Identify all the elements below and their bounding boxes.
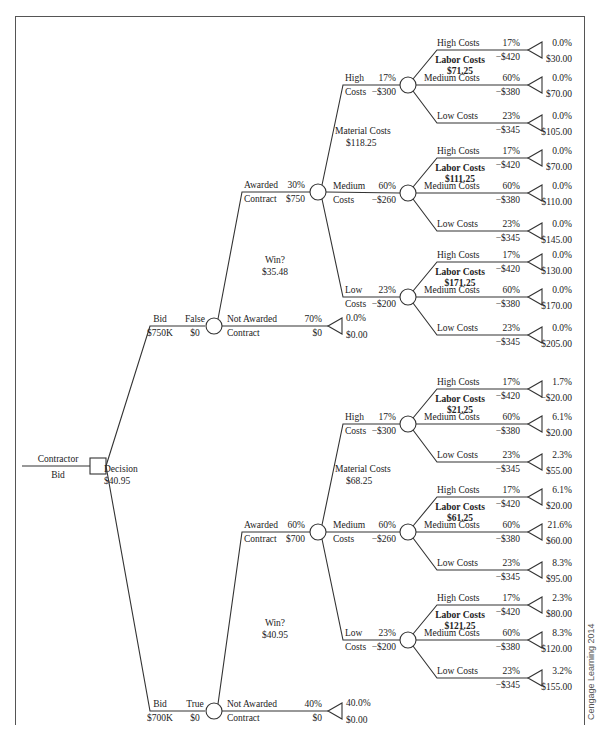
labor-medium-1-2-cost: −$380 <box>496 642 521 652</box>
labor-high-1-2-end-value: $80.00 <box>546 609 572 619</box>
labor-high-0-0-end-value: $30.00 <box>546 54 572 64</box>
not-awarded-end-prob-0: 0.0% <box>346 313 366 323</box>
labor-low-0-0-end-prob: 0.0% <box>552 111 572 121</box>
labor-low-1-1-cost: −$345 <box>496 572 521 582</box>
material-low-0-line <box>322 199 400 297</box>
bid-flag-value-0: $0 <box>190 328 200 338</box>
material-low-1-sub: Costs <box>345 642 366 652</box>
win-value-0: $35.48 <box>262 267 288 277</box>
terminal-node-icon <box>528 562 542 578</box>
labor-medium-1-1-cost: −$380 <box>496 534 521 544</box>
material-medium-1-sub: Costs <box>333 534 354 544</box>
terminal-node-icon <box>328 703 342 719</box>
labor-chance-node-icon-0-0 <box>400 77 416 93</box>
labor-high-1-2-cost: −$420 <box>496 607 521 617</box>
labor-chance-node-icon-0-1 <box>400 185 416 201</box>
material-high-0-sub: Costs <box>345 87 366 97</box>
material-low-0-cost: −$200 <box>372 299 397 309</box>
labor-label-1-0: Labor Costs <box>435 394 485 404</box>
bid-amount-0: $750K <box>147 328 173 338</box>
labor-medium-1-1-prob: 60% <box>503 520 521 530</box>
labor-medium-0-2-end-value: $170.00 <box>541 301 572 311</box>
not-awarded-sub-0: Contract <box>227 328 260 338</box>
labor-low-1-2-label: Low Costs <box>437 666 478 676</box>
not-awarded-sub-1: Contract <box>227 713 260 723</box>
labor-high-0-2-cost: −$420 <box>496 264 521 274</box>
material-low-0-prob: 23% <box>379 285 397 295</box>
labor-low-0-0-label: Low Costs <box>437 111 478 121</box>
labor-high-0-1-cost: −$420 <box>496 160 521 170</box>
awarded-value-0: $750 <box>286 194 305 204</box>
labor-low-1-1-prob: 23% <box>503 558 521 568</box>
labor-medium-1-2-end-prob: 8.3% <box>552 628 572 638</box>
labor-high-1-2-label: High Costs <box>437 593 480 603</box>
labor-high-1-0-label: High Costs <box>437 377 480 387</box>
credit-text: Cengage Learning 2014 <box>586 623 596 720</box>
material-medium-1-cost: −$260 <box>372 534 397 544</box>
bid-label-1: Bid <box>153 699 167 709</box>
bid-branch-0 <box>106 326 205 466</box>
labor-chance-node-icon-1-1 <box>400 524 416 540</box>
labor-low-0-1-end-value: $145.00 <box>541 235 572 245</box>
terminal-node-icon <box>528 115 542 131</box>
labor-medium-0-2-prob: 60% <box>503 285 521 295</box>
terminal-node-icon <box>528 670 542 686</box>
labor-high-0-1-end-value: $70.00 <box>546 162 572 172</box>
labor-low-0-0-prob: 23% <box>503 111 521 121</box>
labor-medium-0-0-prob: 60% <box>503 73 521 83</box>
awarded-prob-0: 30% <box>288 180 306 190</box>
labor-chance-node-icon-1-2 <box>400 632 416 648</box>
labor-low-0-0-cost: −$345 <box>496 125 521 135</box>
labor-medium-0-0-end-value: $70.00 <box>546 89 572 99</box>
labor-high-1-1-label: High Costs <box>437 485 480 495</box>
awarded-sub-0: Contract <box>244 194 277 204</box>
terminal-node-icon <box>528 524 542 540</box>
not-awarded-end-value-1: $0.00 <box>346 715 368 725</box>
labor-low-1-0-label: Low Costs <box>437 450 478 460</box>
labor-label-0-0: Labor Costs <box>435 55 485 65</box>
labor-medium-0-2-cost: −$380 <box>496 299 521 309</box>
labor-label-1-1: Labor Costs <box>435 502 485 512</box>
labor-high-1-1-end-prob: 6.1% <box>552 485 572 495</box>
terminal-node-icon <box>528 42 542 58</box>
labor-medium-0-1-cost: −$380 <box>496 195 521 205</box>
awarded-sub-1: Contract <box>244 534 277 544</box>
terminal-node-icon <box>528 77 542 93</box>
labor-medium-1-0-prob: 60% <box>503 412 521 422</box>
decision-label: Decision <box>104 464 138 474</box>
labor-label-0-2: Labor Costs <box>435 267 485 277</box>
win-chance-node-icon-1 <box>206 703 222 719</box>
labor-low-1-0-prob: 23% <box>503 450 521 460</box>
labor-medium-1-2-end-value: $120.00 <box>541 644 572 654</box>
not-awarded-label-0: Not Awarded <box>227 314 277 324</box>
labor-high-1-1-cost: −$420 <box>496 499 521 509</box>
labor-high-1-0-cost: −$420 <box>496 391 521 401</box>
win-label-1: Win? <box>265 618 285 628</box>
terminal-node-icon <box>528 454 542 470</box>
win-label-0: Win? <box>265 255 285 265</box>
awarded-label-0: Awarded <box>244 180 278 190</box>
material-medium-0-sub: Costs <box>333 195 354 205</box>
material-chance-node-icon-0 <box>310 184 326 200</box>
labor-medium-1-1-label: Medium Costs <box>424 520 480 530</box>
labor-medium-0-0-end-prob: 0.0% <box>552 73 572 83</box>
labor-high-1-0-end-prob: 1.7% <box>552 377 572 387</box>
terminal-node-icon <box>528 185 542 201</box>
material-low-1-line <box>322 539 400 640</box>
material-label-1: Material Costs <box>335 464 391 474</box>
labor-low-0-1-cost: −$345 <box>496 233 521 243</box>
labor-high-1-1-end-value: $20.00 <box>546 501 572 511</box>
material-medium-1-prob: 60% <box>379 520 397 530</box>
material-medium-0-line <box>326 192 400 193</box>
labor-medium-0-1-label: Medium Costs <box>424 181 480 191</box>
labor-low-1-2-prob: 23% <box>503 666 521 676</box>
labor-high-0-0-end-prob: 0.0% <box>552 38 572 48</box>
material-chance-node-icon-1 <box>310 524 326 540</box>
labor-low-0-1-prob: 23% <box>503 219 521 229</box>
labor-chance-node-icon-0-2 <box>400 289 416 305</box>
labor-high-0-2-label: High Costs <box>437 250 480 260</box>
material-high-1-prob: 17% <box>379 412 397 422</box>
labor-medium-1-0-cost: −$380 <box>496 426 521 436</box>
labor-high-1-0-end-value: −$20.00 <box>541 393 573 403</box>
terminal-node-icon <box>528 327 542 343</box>
